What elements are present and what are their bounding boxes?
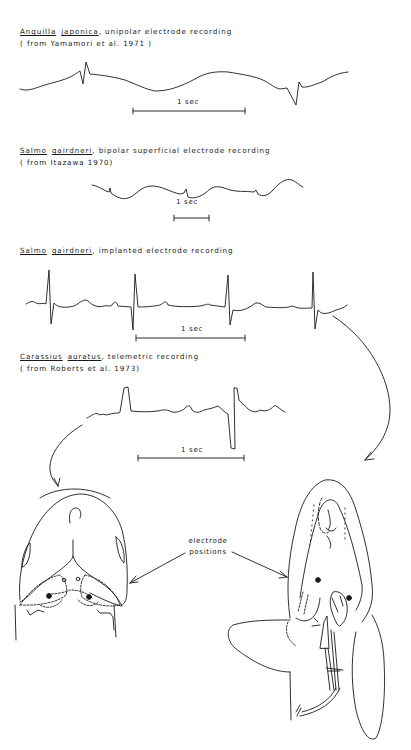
panel-1-scale-bar bbox=[133, 108, 245, 114]
arrow-to-left-fish bbox=[50, 425, 82, 486]
panel-2-scale-bar bbox=[174, 215, 209, 221]
panel-4-ecg-trace bbox=[87, 387, 285, 449]
figure-drawing bbox=[0, 0, 411, 750]
panel-1-ecg-trace bbox=[20, 62, 348, 105]
panel-3-ecg-trace bbox=[26, 270, 347, 330]
panel-3-scale-bar bbox=[136, 335, 245, 341]
panel-2-ecg-trace bbox=[92, 179, 303, 198]
arrow-to-right-fish bbox=[333, 316, 390, 460]
left-fish-head-drawing bbox=[15, 489, 127, 640]
panel-4-scale-bar bbox=[138, 455, 244, 461]
right-fish-body-drawing bbox=[228, 480, 384, 739]
electrode-pointer-lines bbox=[130, 552, 287, 583]
